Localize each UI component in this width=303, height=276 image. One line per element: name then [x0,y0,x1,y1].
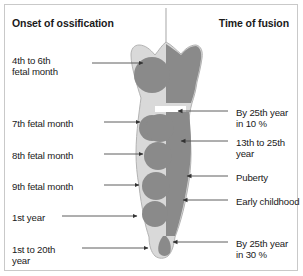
leader-lines-right [173,111,228,242]
leader-lines-left [62,63,148,248]
label-l6: 1st to 20th year [12,244,55,267]
label-l2: 7th fetal month [12,118,73,129]
header-onset-of-ossification: Onset of ossification [12,17,114,29]
label-r3: Puberty [236,172,268,183]
label-l1: 4th to 6th fetal month [12,55,58,78]
label-l3: 8th fetal month [12,150,73,161]
label-r5: By 25th year in 30 % [236,238,288,261]
label-r2: 13th to 25th year [236,137,285,160]
label-l4: 9th fetal month [12,181,73,192]
label-r1: By 25th year in 10 % [236,107,288,130]
header-time-of-fusion: Time of fusion [219,17,289,29]
label-l5: 1st year [12,212,45,223]
ossification-figure: Onset of ossification Time of fusion 4th… [0,0,303,276]
label-r4: Early childhood [236,196,299,207]
